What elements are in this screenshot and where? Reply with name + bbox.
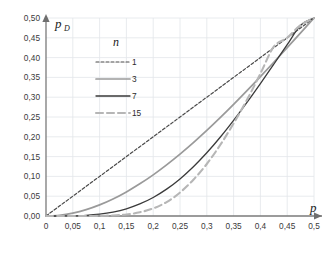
y-tick-label: 0,20 xyxy=(24,132,41,142)
x-tick-label: 0,5 xyxy=(308,221,320,231)
y-tick-label: 0,50 xyxy=(24,13,41,23)
x-tick-label: 0,25 xyxy=(172,221,189,231)
x-tick-label: 0,35 xyxy=(226,221,243,231)
y-tick-label: 0,10 xyxy=(24,171,41,181)
x-tick-label: 0,45 xyxy=(279,221,296,231)
y-tick-label: 0,15 xyxy=(24,152,41,162)
chart-background xyxy=(0,0,334,256)
x-tick-label: 0,05 xyxy=(65,221,82,231)
y-axis-title-subscript: D xyxy=(63,24,70,33)
y-tick-label: 0,05 xyxy=(24,191,41,201)
x-tick-label: 0 xyxy=(44,221,49,231)
y-tick-label: 0,45 xyxy=(24,33,41,43)
x-axis-title-text: p xyxy=(309,200,317,215)
legend-label-n-7: 7 xyxy=(132,91,137,101)
chart-svg: 0,000,050,100,150,200,250,300,350,400,45… xyxy=(0,0,334,256)
legend-label-n-1: 1 xyxy=(132,57,137,67)
x-tick-label: 0,15 xyxy=(118,221,135,231)
y-tick-label: 0,30 xyxy=(24,92,41,102)
x-tick-label: 0,4 xyxy=(255,221,267,231)
y-axis-title-base: p xyxy=(54,16,62,31)
y-tick-label: 0,00 xyxy=(24,211,41,221)
legend-title: n xyxy=(113,35,119,49)
x-tick-label: 0,2 xyxy=(147,221,159,231)
x-axis-title: p xyxy=(309,200,317,215)
y-tick-label: 0,35 xyxy=(24,72,41,82)
x-tick-label: 0,1 xyxy=(94,221,106,231)
x-tick-label: 0,3 xyxy=(201,221,213,231)
y-tick-label: 0,40 xyxy=(24,53,41,63)
legend-label-n-15: 15 xyxy=(132,108,142,118)
y-tick-label: 0,25 xyxy=(24,112,41,122)
chart-figure: 0,000,050,100,150,200,250,300,350,400,45… xyxy=(0,0,334,256)
legend-label-n-3: 3 xyxy=(132,74,137,84)
